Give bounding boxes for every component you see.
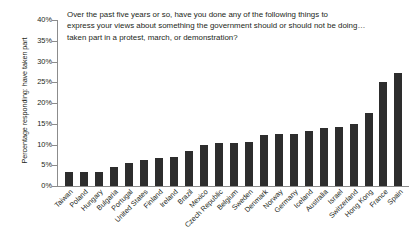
bar-slot [62, 20, 77, 186]
bar[interactable] [260, 135, 268, 186]
bar[interactable] [170, 157, 178, 186]
bar[interactable] [350, 124, 358, 186]
bar-slot [316, 20, 331, 186]
bar-slot [167, 20, 182, 186]
bar-slot [122, 20, 137, 186]
y-tick-mark [52, 124, 57, 125]
bar-slot [197, 20, 212, 186]
y-tick-label: 20% [24, 99, 52, 107]
bar-slot [331, 20, 346, 186]
bar[interactable] [80, 172, 88, 186]
bar[interactable] [125, 163, 133, 186]
bar[interactable] [230, 143, 238, 186]
bar[interactable] [335, 127, 343, 186]
bar[interactable] [215, 143, 223, 186]
bar-slot [107, 20, 122, 186]
bar-slot [92, 20, 107, 186]
bar[interactable] [245, 142, 253, 186]
y-tick-mark [52, 186, 57, 187]
y-tick-mark [52, 103, 57, 104]
x-axis-tick-labels: TaiwanPolandHungaryBulgariaPortugalUnite… [58, 188, 409, 246]
chart-title-line: Over the past five years or so, have you… [67, 9, 409, 20]
bar[interactable] [185, 151, 193, 186]
y-tick-label: 0% [24, 182, 52, 190]
y-tick-mark [52, 62, 57, 63]
y-tick-mark [52, 82, 57, 83]
bar-slot [346, 20, 361, 186]
bar-slot [361, 20, 376, 186]
y-tick-label: 35% [24, 37, 52, 45]
bar-slot [286, 20, 301, 186]
bar[interactable] [65, 172, 73, 186]
bar-slot [226, 20, 241, 186]
y-tick-mark [52, 145, 57, 146]
bar-slot [137, 20, 152, 186]
y-tick-label: 40% [24, 16, 52, 24]
y-tick-label: 25% [24, 78, 52, 86]
bar-slot [241, 20, 256, 186]
bar-slot [376, 20, 391, 186]
y-tick-mark [52, 41, 57, 42]
y-tick-label: 10% [24, 141, 52, 149]
bar-slot [182, 20, 197, 186]
bar[interactable] [110, 167, 118, 186]
plot-area [58, 20, 409, 186]
bar-slot [77, 20, 92, 186]
bars-layer [58, 20, 409, 186]
bar-slot [212, 20, 227, 186]
bar[interactable] [290, 134, 298, 186]
y-tick-label: 15% [24, 120, 52, 128]
bar-slot [271, 20, 286, 186]
bar[interactable] [140, 160, 148, 186]
bar-slot [152, 20, 167, 186]
bar[interactable] [155, 158, 163, 186]
y-tick-label: 30% [24, 58, 52, 66]
bar-chart-figure: Percentage responding: have taken part 0… [0, 0, 414, 247]
bar[interactable] [95, 172, 103, 186]
bar[interactable] [394, 73, 402, 186]
bar[interactable] [200, 145, 208, 186]
bar-slot [256, 20, 271, 186]
y-tick-label: 5% [24, 161, 52, 169]
bar[interactable] [305, 131, 313, 186]
bar[interactable] [379, 82, 387, 186]
bar-slot [391, 20, 406, 186]
y-axis-tick-labels: 0%5%10%15%20%25%30%35%40% [24, 14, 52, 186]
y-tick-mark [52, 20, 57, 21]
bar[interactable] [275, 134, 283, 186]
bar-slot [301, 20, 316, 186]
y-tick-mark [52, 165, 57, 166]
bar[interactable] [365, 113, 373, 186]
bar[interactable] [320, 128, 328, 186]
x-tick-label: Spain [386, 188, 405, 207]
